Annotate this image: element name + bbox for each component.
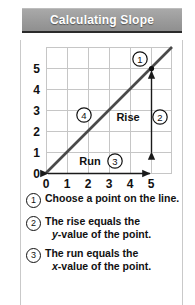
plotted-point [149,66,154,71]
x-tick-4: 4 [127,177,134,190]
caption-text-1: Choose a point on the line. [45,192,179,205]
y-axis-labels: 5 4 3 2 1 0 [33,62,40,181]
marker-4-label: 4 [81,110,86,121]
x-tick-2: 2 [85,177,92,190]
caption-number-2: 2 [26,216,41,231]
marker-3-label: 3 [112,156,117,167]
caption-item-1: 1 Choose a point on the line. [26,192,180,208]
run-label: Run [79,155,101,167]
caption-number-3: 3 [26,248,41,263]
y-tick-1: 1 [33,146,40,160]
caption-3-line1: The run equals the [45,247,138,259]
rise-label: Rise [116,111,139,123]
caption-text-3: The run equals the x-value of the point. [45,247,151,272]
caption-item-2: 2 The rise equals the y-value of the poi… [26,215,180,240]
y-tick-3: 3 [33,104,40,118]
caption-list: 1 Choose a point on the line. 2 The rise… [26,192,180,279]
caption-2-line2: y-value of the point. [45,228,151,241]
slope-graph: Rise 2 Run 3 1 4 5 4 3 2 1 0 [22,40,182,190]
caption-3-line2-rest: -value of the point. [58,260,151,272]
y-tick-0: 0 [33,167,40,181]
caption-text-2: The rise equals the y-value of the point… [45,215,151,240]
page-title: Calculating Slope [50,13,154,27]
x-axis-labels: 0 1 2 3 4 5 [43,177,155,190]
x-tick-5: 5 [148,177,155,190]
x-tick-0: 0 [43,177,50,190]
caption-2-line1: The rise equals the [45,215,140,227]
y-tick-4: 4 [33,83,40,97]
x-tick-3: 3 [106,177,113,190]
worksheet-page: Calculating Slope [0,0,195,305]
left-rule-divider [20,40,21,305]
caption-3-line2: x-value of the point. [45,260,151,273]
right-rule-divider [182,40,183,305]
caption-1-line1: Choose a point on the line. [45,192,179,204]
caption-number-1: 1 [26,193,41,208]
x-tick-1: 1 [64,177,71,190]
title-banner: Calculating Slope [22,8,182,31]
y-tick-5: 5 [33,62,40,76]
caption-2-line2-rest: -value of the point. [58,228,151,240]
marker-1-label: 1 [137,54,142,65]
marker-2-label: 2 [157,112,162,123]
caption-item-3: 3 The run equals the x-value of the poin… [26,247,180,272]
y-tick-2: 2 [33,125,40,139]
